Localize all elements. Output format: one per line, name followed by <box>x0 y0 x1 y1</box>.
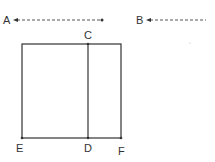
label-c: C <box>84 29 92 41</box>
arrow-a: A <box>3 14 104 26</box>
endpoint-dot-icon <box>101 19 104 22</box>
label-d: D <box>84 142 92 154</box>
label-a: A <box>3 14 11 26</box>
label-f: F <box>118 145 125 157</box>
point-c-marker <box>87 43 90 46</box>
speck-mark <box>189 42 190 43</box>
label-e: E <box>16 142 23 154</box>
point-d-marker <box>87 137 90 140</box>
arrow-b: B <box>136 14 206 26</box>
rectangle-box <box>22 44 121 138</box>
geometry-diagram: A B C E D F <box>0 0 215 162</box>
point-f-marker <box>120 137 123 140</box>
label-b: B <box>136 14 143 26</box>
arrowhead-left-icon <box>13 18 18 22</box>
point-e-marker <box>21 137 24 140</box>
arrowhead-left-icon <box>146 18 151 22</box>
